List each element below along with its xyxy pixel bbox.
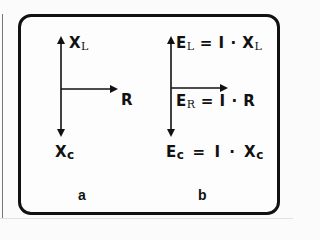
r-label: R	[121, 93, 133, 108]
panel-b-label: b	[198, 188, 207, 202]
ec-equation: Ec = I · Xc	[166, 145, 263, 161]
panel-a-vectors	[61, 38, 116, 135]
xc-label: Xc	[55, 145, 74, 161]
panel-b-vectors	[171, 38, 226, 135]
el-equation: EL = I · XL	[176, 36, 262, 52]
er-equation: ER = I · R	[176, 94, 255, 110]
xl-label: XL	[69, 36, 88, 52]
panel-a-label: a	[78, 188, 86, 202]
